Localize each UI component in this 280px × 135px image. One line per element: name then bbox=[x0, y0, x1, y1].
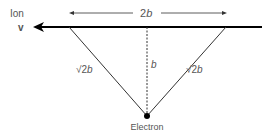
ion-electron-diagram: 2b Ion v b √2b √2b Electron bbox=[0, 0, 280, 135]
arrowhead-right-icon bbox=[222, 11, 227, 15]
left-side-label: √2b bbox=[76, 64, 93, 75]
electron-label: Electron bbox=[130, 122, 163, 132]
ion-label: Ion bbox=[10, 8, 24, 19]
height-label: b bbox=[151, 59, 157, 70]
width-label: 2b bbox=[140, 7, 152, 19]
arrowhead-left-icon bbox=[69, 11, 74, 15]
electron-dot-icon bbox=[144, 113, 150, 119]
right-side-label: √2b bbox=[186, 64, 203, 75]
velocity-label: v bbox=[18, 22, 24, 33]
